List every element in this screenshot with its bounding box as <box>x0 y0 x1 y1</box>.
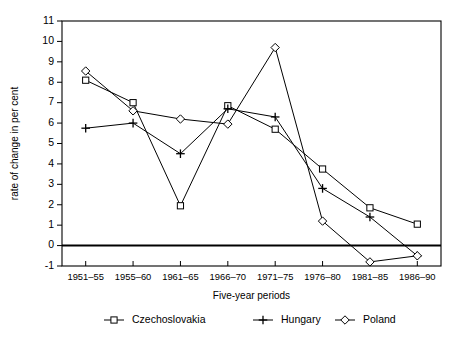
marker-square <box>177 203 183 209</box>
marker-square <box>319 166 325 172</box>
series-line <box>86 109 418 256</box>
y-tick-label: -1 <box>45 259 54 271</box>
series-poland <box>81 43 421 266</box>
series-line <box>86 48 418 262</box>
x-tick-label: 1966–70 <box>210 271 247 282</box>
legend-item-poland[interactable]: Poland <box>335 313 396 325</box>
marker-square <box>414 221 420 227</box>
marker-square <box>367 205 373 211</box>
x-tick-label: 1976–80 <box>304 271 341 282</box>
y-tick-label: 3 <box>48 177 54 189</box>
chart-legend: CzechoslovakiaHungaryPoland <box>104 313 396 325</box>
x-tick-label: 1971–75 <box>257 271 294 282</box>
line-chart: -101234567891011 1951–551955–601961–6519… <box>0 0 454 341</box>
y-tick-label: 1 <box>48 218 54 230</box>
marker-diamond <box>224 120 232 128</box>
y-tick-label: 10 <box>42 34 54 46</box>
marker-plus <box>259 316 268 325</box>
x-tick-label: 1986–90 <box>399 271 436 282</box>
legend-item-hungary[interactable]: Hungary <box>253 313 321 325</box>
marker-diamond <box>271 43 279 51</box>
series-czechoslovakia <box>83 77 421 227</box>
marker-plus <box>318 184 327 193</box>
y-tick-label: 11 <box>43 14 54 26</box>
marker-diamond <box>341 316 349 324</box>
x-tick-label: 1955–60 <box>115 271 152 282</box>
x-axis-title: Five-year periods <box>213 290 290 301</box>
chart-container: -101234567891011 1951–551955–601961–6519… <box>0 0 454 341</box>
y-tick-label: 8 <box>48 75 54 87</box>
y-tick-label: 0 <box>48 238 54 250</box>
x-tick-label: 1951–55 <box>67 271 104 282</box>
x-tick-label: 1961–65 <box>162 271 199 282</box>
marker-square <box>111 317 117 323</box>
marker-square <box>130 100 136 106</box>
y-tick-label: 6 <box>48 116 54 128</box>
x-tick-label: 1981–85 <box>352 271 389 282</box>
marker-plus <box>81 124 90 133</box>
y-tick-label: 5 <box>48 136 54 148</box>
marker-diamond <box>176 115 184 123</box>
y-axis-title: rate of change in per cent <box>9 87 20 201</box>
marker-plus <box>129 119 138 128</box>
y-tick-label: 4 <box>48 157 54 169</box>
data-series-group <box>81 43 421 266</box>
x-axis-ticks: 1951–551955–601961–651966–701971–751976–… <box>67 261 435 282</box>
legend-label: Czechoslovakia <box>132 313 206 325</box>
legend-label: Poland <box>363 313 396 325</box>
y-tick-label: 9 <box>48 55 54 67</box>
y-tick-label: 7 <box>48 95 54 107</box>
marker-square <box>272 126 278 132</box>
marker-plus <box>271 113 280 122</box>
y-tick-label: 2 <box>48 198 54 210</box>
series-hungary <box>81 104 421 260</box>
marker-square <box>83 77 89 83</box>
legend-label: Hungary <box>281 313 321 325</box>
y-axis-ticks: -101234567891011 <box>42 14 62 271</box>
legend-item-czechoslovakia[interactable]: Czechoslovakia <box>104 313 206 325</box>
